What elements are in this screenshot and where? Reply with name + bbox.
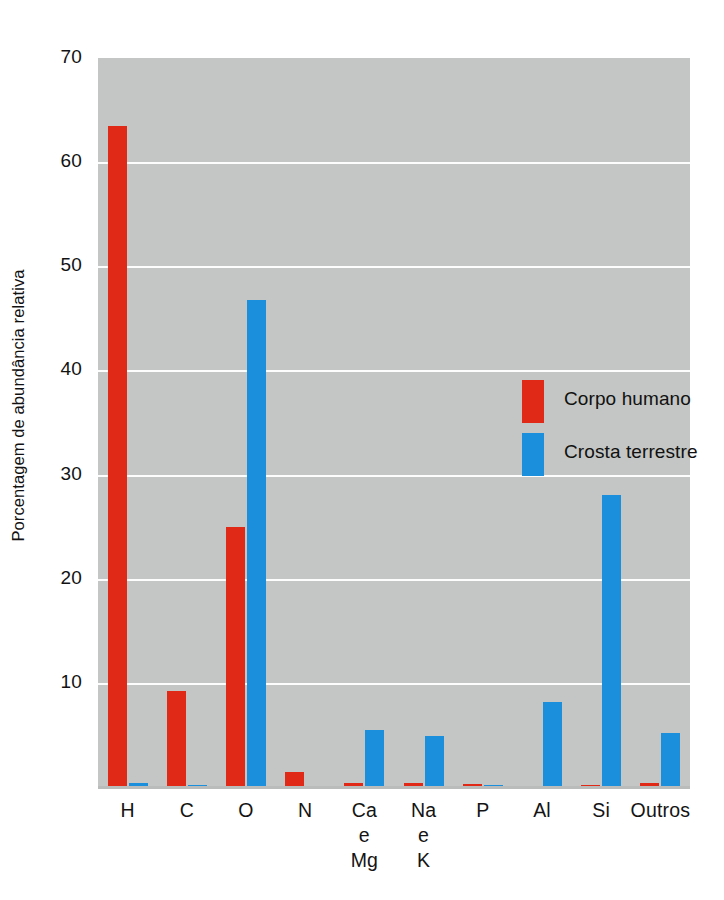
bar-crosta-terrestre-o (247, 300, 266, 787)
plot-area: Corpo humano Crosta terrestre (98, 58, 690, 787)
legend-label-crosta-terrestre: Crosta terrestre (564, 441, 698, 463)
gridline (98, 475, 690, 477)
y-tick-label: 10 (8, 671, 82, 693)
bar-corpo-humano-h (108, 126, 127, 787)
gridline (98, 579, 690, 581)
legend-swatch-crosta-terrestre (522, 433, 544, 476)
y-tick-label: 60 (8, 150, 82, 172)
legend-swatch-corpo-humano (522, 380, 544, 423)
bar-crosta-terrestre-al (543, 702, 562, 787)
gridline (98, 370, 690, 372)
chart-figure: Porcentagem de abundância relativa 10203… (0, 0, 724, 900)
gridline (98, 162, 690, 164)
gridline (98, 266, 690, 268)
bar-crosta-terrestre-na-e-k (425, 736, 444, 787)
y-tick-label: 70 (8, 46, 82, 68)
gridline (98, 683, 690, 685)
bar-crosta-terrestre-outros (661, 733, 680, 787)
x-tick-label-line: K (374, 848, 474, 873)
y-tick-label: 50 (8, 254, 82, 276)
x-tick-label-line: Outros (610, 798, 710, 823)
bar-corpo-humano-o (226, 527, 245, 787)
bar-crosta-terrestre-si (602, 495, 621, 787)
bar-corpo-humano-n (285, 772, 304, 787)
legend-label-corpo-humano: Corpo humano (564, 388, 691, 410)
bar-crosta-terrestre-ca-e-mg (365, 730, 384, 787)
y-tick-label: 20 (8, 567, 82, 589)
x-tick-label: Outros (610, 798, 710, 823)
bar-corpo-humano-c (167, 691, 186, 787)
y-tick-label: 40 (8, 358, 82, 380)
x-axis-baseline (98, 786, 690, 789)
x-tick-label-line: e (374, 823, 474, 848)
y-tick-label: 30 (8, 463, 82, 485)
